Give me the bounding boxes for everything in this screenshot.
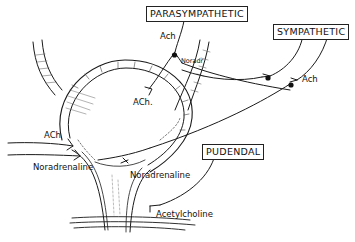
pudendal-box: PUDENDAL [202,144,264,160]
label-noradr: Noradr [181,56,203,66]
label-ach-left: ACh [44,130,61,140]
label-ach-sympathetic: Ach [302,74,318,84]
parasympathetic-nerve [145,15,290,95]
pudendal-nerve [150,155,215,212]
parasympathetic-box: PARASYMPATHETIC [146,6,248,22]
sympathetic-box: SYMPATHETIC [273,24,349,40]
bladder-innervation-diagram: PARASYMPATHETIC SYMPATHETIC PUDENDAL Ach… [0,0,355,242]
parasympathetic-ganglion-dot [172,52,177,57]
sympathetic-ganglion-dot-1 [265,75,270,80]
label-noradrenaline-center: Noradrenaline [130,170,190,180]
label-ach-inner: ACh. [133,97,153,107]
left-nerve-fibers [8,139,80,160]
right-ureter [175,40,210,110]
sympathetic-ganglion-dot-2 [288,82,293,87]
left-ureter [33,40,62,95]
label-noradrenaline-left: Noradrenaline [33,162,93,172]
label-ach-parasympathetic: Ach [160,31,176,41]
label-acetylcholine: Acetylcholine [156,209,213,219]
